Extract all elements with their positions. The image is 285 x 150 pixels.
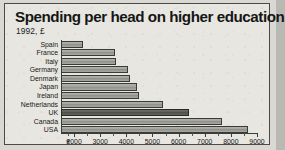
x-axis-minor-tick: [218, 133, 219, 136]
bar-category-label: Japan: [39, 83, 58, 90]
bar-category-label: Germany: [30, 66, 58, 73]
bar-category-label: UK: [48, 109, 58, 116]
bar-row: Ireland: [61, 92, 257, 99]
chart-subtitle: 1992, £: [16, 26, 45, 36]
bar-category-label: USA: [44, 126, 58, 133]
bar: [61, 49, 115, 56]
x-axis-tick: [257, 133, 258, 137]
bar: [61, 41, 83, 48]
bar-row: Netherlands: [61, 101, 257, 108]
x-axis-tick-label: 7000: [197, 138, 212, 145]
bar-category-label: Italy: [45, 58, 58, 65]
x-axis-tick-label: 2000: [66, 138, 81, 145]
bar-category-label: Spain: [40, 41, 58, 48]
bar: [61, 66, 128, 73]
chart-panel: Spending per head on higher education 19…: [4, 3, 270, 145]
x-axis-minor-tick: [244, 133, 245, 136]
x-axis-tick-label: 4000: [119, 138, 134, 145]
bar-row: USA: [61, 126, 257, 133]
x-axis-tick-label: 5000: [145, 138, 160, 145]
bar: [61, 58, 116, 65]
chart-title: Spending per head on higher education: [15, 8, 276, 25]
bar: [61, 118, 222, 125]
x-axis-tick-label: 3000: [93, 138, 108, 145]
bar-category-label: Canada: [34, 118, 58, 125]
plot-area: SpainFranceItalyGermanyDenmarkJapanIrela…: [61, 40, 257, 134]
bar-category-label: France: [37, 49, 58, 56]
bar-category-label: Netherlands: [21, 101, 58, 108]
bar-category-label: Ireland: [37, 92, 58, 99]
bar-row: Italy: [61, 58, 257, 65]
x-axis-tick-label: 9000: [249, 138, 264, 145]
x-axis-minor-tick: [139, 133, 140, 136]
bar-row: Germany: [61, 66, 257, 73]
x-axis-tick: [74, 133, 75, 137]
bar-row: France: [61, 49, 257, 56]
chart-figure: Spending per head on higher education 19…: [0, 0, 276, 150]
x-axis-tick: [179, 133, 180, 137]
bar-category-label: Denmark: [30, 75, 58, 82]
bar-row: Denmark: [61, 75, 257, 82]
x-axis-minor-tick: [87, 133, 88, 136]
x-axis-tick-label: 8000: [223, 138, 238, 145]
x-axis-tick: [152, 133, 153, 137]
bar: [61, 83, 137, 90]
x-axis-tick: [100, 133, 101, 137]
bar: [61, 126, 248, 133]
bar-row: Spain: [61, 41, 257, 48]
bar: [61, 109, 189, 116]
bar: [61, 92, 139, 99]
bar: [61, 75, 130, 82]
bar: [61, 101, 163, 108]
x-axis-minor-tick: [68, 133, 69, 136]
x-axis-tick: [231, 133, 232, 137]
x-axis-minor-tick: [192, 133, 193, 136]
x-axis-tick-label: 6000: [171, 138, 186, 145]
x-axis-minor-tick: [113, 133, 114, 136]
bar-row: Canada: [61, 118, 257, 125]
x-axis-tick: [126, 133, 127, 137]
bar-row: Japan: [61, 83, 257, 90]
x-axis-minor-tick: [166, 133, 167, 136]
x-axis-tick: [205, 133, 206, 137]
bar-row: UK: [61, 109, 257, 116]
